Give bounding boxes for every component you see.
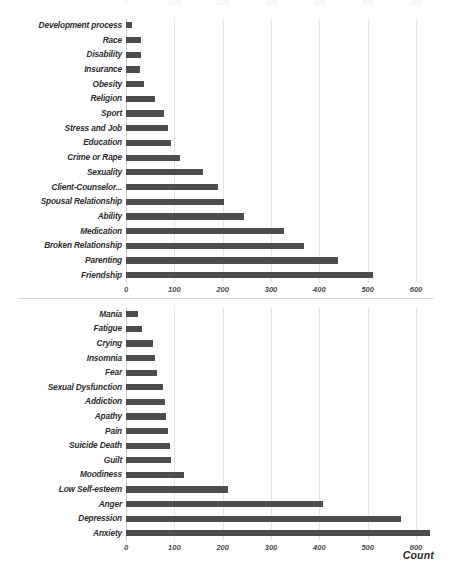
plot-wrap-top: Development processRaceDisabilityInsuran…: [0, 0, 452, 298]
category-label: Education: [83, 138, 122, 146]
x-tick-label-clipped: 100: [168, 0, 181, 7]
x-tick-label: 400: [313, 286, 326, 294]
category-label: Client-Counselor...: [52, 183, 122, 191]
category-label: Moodiness: [80, 470, 122, 478]
bar[interactable]: [126, 428, 168, 434]
gridline-500: [368, 307, 369, 541]
bar[interactable]: [126, 66, 140, 72]
bar[interactable]: [126, 384, 163, 390]
category-label: Race: [103, 36, 122, 44]
bar[interactable]: [126, 52, 141, 58]
bar[interactable]: [126, 213, 244, 219]
category-label: Crying: [97, 339, 122, 347]
x-tick-label: 100: [168, 544, 181, 552]
x-tick-label: 600: [410, 286, 423, 294]
bar[interactable]: [126, 22, 132, 28]
category-label: Parenting: [85, 256, 122, 264]
category-label: Obesity: [93, 80, 122, 88]
bar[interactable]: [126, 311, 138, 317]
category-label: Guilt: [104, 456, 122, 464]
bar[interactable]: [126, 340, 153, 346]
gridline-600: [416, 307, 417, 541]
x-tick-label-clipped: 400: [313, 0, 326, 7]
category-label: Broken Relationship: [44, 241, 122, 249]
category-label: Mania: [99, 310, 122, 318]
bar[interactable]: [126, 399, 165, 405]
bar[interactable]: [126, 96, 155, 102]
category-label: Anger: [99, 500, 122, 508]
bar[interactable]: [126, 472, 184, 478]
x-tick-label-clipped: 0: [124, 0, 128, 7]
x-axis-title: Count: [403, 549, 434, 561]
x-tick-label: 0: [124, 544, 128, 552]
x-tick-label: 500: [361, 544, 374, 552]
x-tick-label-clipped: 200: [216, 0, 229, 7]
category-label: Fatigue: [94, 324, 122, 332]
bar[interactable]: [126, 326, 142, 332]
bar[interactable]: [126, 184, 218, 190]
category-label: Suicide Death: [69, 441, 122, 449]
category-label: Insomnia: [87, 354, 122, 362]
gridline-600: [416, 18, 417, 283]
category-label: Apathy: [95, 412, 122, 420]
plot-area-top: [126, 18, 416, 283]
gridline-400: [319, 18, 320, 283]
gridline-500: [368, 18, 369, 283]
category-label: Insurance: [84, 65, 122, 73]
category-label: Addiction: [85, 397, 122, 405]
category-label: Anxiety: [93, 529, 122, 537]
bar[interactable]: [126, 370, 157, 376]
bar[interactable]: [126, 355, 155, 361]
x-tick-label: 400: [313, 544, 326, 552]
category-label: Sexuality: [87, 168, 122, 176]
category-label: Disability: [87, 50, 122, 58]
x-tick-label: 300: [265, 286, 278, 294]
bar[interactable]: [126, 199, 224, 205]
category-label: Low Self-esteem: [59, 485, 122, 493]
bar[interactable]: [126, 228, 284, 234]
bar[interactable]: [126, 530, 430, 536]
category-label: Spousal Relationship: [41, 197, 122, 205]
chart-panel-interpersonal-issues: Development processRaceDisabilityInsuran…: [0, 0, 452, 298]
chart-page: Development processRaceDisabilityInsuran…: [0, 0, 452, 572]
category-label: Depression: [78, 514, 122, 522]
x-tick-label-clipped: 600: [410, 0, 423, 7]
category-label: Pain: [105, 427, 122, 435]
bar[interactable]: [126, 501, 323, 507]
category-label: Development process: [39, 21, 122, 29]
category-label: Fear: [105, 368, 122, 376]
bar[interactable]: [126, 486, 228, 492]
bar[interactable]: [126, 155, 180, 161]
category-label: Sport: [101, 109, 122, 117]
chart-panel-symptoms: ManiaFatigueCryingInsomniaFearSexual Dys…: [0, 299, 452, 572]
bar[interactable]: [126, 516, 401, 522]
plot-wrap-bottom: ManiaFatigueCryingInsomniaFearSexual Dys…: [0, 299, 452, 572]
bar[interactable]: [126, 457, 171, 463]
x-tick-label: 200: [216, 286, 229, 294]
category-label: Crime or Rape: [67, 153, 122, 161]
bar[interactable]: [126, 257, 338, 263]
plot-area-bottom: [126, 307, 416, 541]
bar[interactable]: [126, 81, 144, 87]
category-label: Friendship: [81, 271, 122, 279]
bar[interactable]: [126, 37, 141, 43]
bar[interactable]: [126, 125, 168, 131]
category-label: Ability: [98, 212, 122, 220]
x-tick-label: 500: [361, 286, 374, 294]
category-label-column-bottom: ManiaFatigueCryingInsomniaFearSexual Dys…: [0, 307, 124, 541]
category-label: Religion: [90, 94, 122, 102]
bar[interactable]: [126, 272, 373, 278]
x-axis-top-clipped: 0100200300400500600: [126, 0, 416, 13]
bar[interactable]: [126, 110, 164, 116]
bar[interactable]: [126, 243, 304, 249]
bar[interactable]: [126, 413, 166, 419]
bar[interactable]: [126, 443, 170, 449]
x-tick-label: 200: [216, 544, 229, 552]
category-label: Sexual Dysfunction: [48, 383, 122, 391]
bar[interactable]: [126, 140, 171, 146]
category-label-column-top: Development processRaceDisabilityInsuran…: [0, 18, 124, 283]
x-axis-bottom: 0100200300400500600: [126, 544, 416, 558]
x-tick-label: 100: [168, 286, 181, 294]
bar[interactable]: [126, 169, 203, 175]
category-label: Stress and Job: [65, 124, 122, 132]
